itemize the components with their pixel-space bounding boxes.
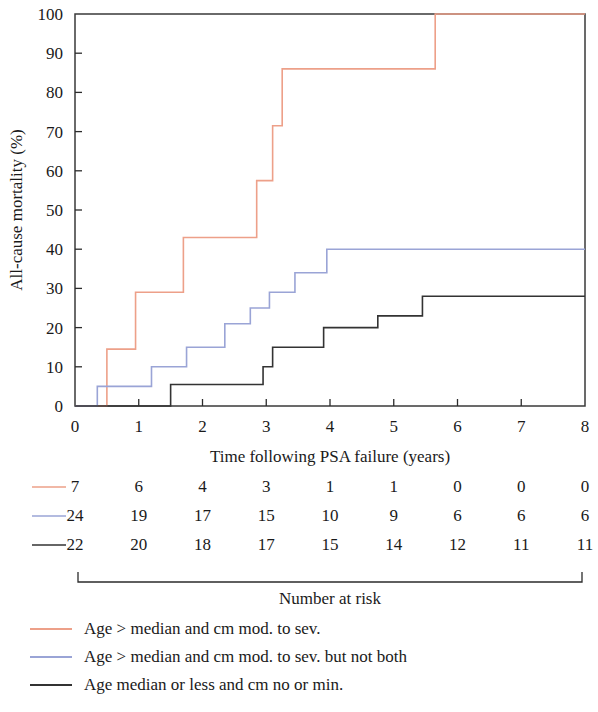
x-tick-label: 2	[198, 417, 207, 436]
risk-count-cell: 1	[390, 477, 399, 496]
y-tick-label: 70	[46, 123, 63, 142]
x-tick-label: 3	[262, 417, 271, 436]
risk-count-cell: 7	[71, 477, 80, 496]
y-tick-label: 90	[46, 44, 63, 63]
x-axis-ticks: 012345678	[71, 399, 590, 436]
risk-count-cell: 24	[67, 506, 85, 525]
x-tick-label: 5	[390, 417, 399, 436]
legend-group: Age > median and cm mod. to sev.Age > me…	[30, 619, 407, 694]
km-curve-series-3	[75, 296, 585, 406]
y-tick-label: 20	[46, 319, 63, 338]
legend-label-1: Age > median and cm mod. to sev.	[84, 619, 321, 638]
legend-label-2: Age > median and cm mod. to sev. but not…	[84, 647, 407, 666]
plot-area-frame	[75, 14, 585, 406]
risk-count-cell: 1	[326, 477, 335, 496]
km-curves-group	[75, 14, 585, 406]
risk-count-cell: 0	[453, 477, 462, 496]
number-at-risk-table: 7643110002419171510966622201817151412111…	[32, 477, 593, 554]
risk-count-cell: 15	[322, 535, 339, 554]
x-tick-label: 8	[581, 417, 590, 436]
risk-count-cell: 12	[449, 535, 466, 554]
km-curve-series-1	[75, 14, 585, 406]
risk-count-cell: 3	[262, 477, 271, 496]
risk-count-cell: 6	[517, 506, 526, 525]
y-tick-label: 80	[46, 83, 63, 102]
x-tick-label: 1	[135, 417, 144, 436]
chart-canvas: 0102030405060708090100 012345678 All-cau…	[0, 0, 598, 712]
risk-count-cell: 11	[513, 535, 529, 554]
y-tick-label: 10	[46, 358, 63, 377]
risk-count-cell: 4	[198, 477, 207, 496]
risk-count-cell: 22	[67, 535, 84, 554]
y-tick-label: 40	[46, 240, 63, 259]
kaplan-meier-figure: 0102030405060708090100 012345678 All-cau…	[0, 0, 598, 712]
y-tick-label: 30	[46, 279, 63, 298]
y-tick-label: 60	[46, 162, 63, 181]
y-tick-label: 100	[38, 5, 64, 24]
risk-count-cell: 20	[130, 535, 147, 554]
risk-count-cell: 11	[577, 535, 593, 554]
y-tick-label: 0	[55, 397, 64, 416]
risk-count-cell: 6	[135, 477, 144, 496]
risk-count-cell: 17	[258, 535, 276, 554]
risk-count-cell: 0	[517, 477, 526, 496]
x-tick-label: 0	[71, 417, 80, 436]
risk-count-cell: 6	[453, 506, 462, 525]
legend-label-3: Age median or less and cm no or min.	[84, 675, 343, 694]
risk-count-cell: 0	[581, 477, 590, 496]
risk-bracket	[78, 572, 582, 582]
risk-count-cell: 10	[322, 506, 339, 525]
x-axis-title: Time following PSA failure (years)	[210, 447, 450, 466]
risk-count-cell: 6	[581, 506, 590, 525]
risk-count-cell: 9	[390, 506, 399, 525]
risk-count-cell: 19	[130, 506, 147, 525]
y-tick-label: 50	[46, 201, 63, 220]
risk-count-cell: 18	[194, 535, 211, 554]
risk-bracket-label: Number at risk	[279, 589, 381, 608]
risk-count-cell: 17	[194, 506, 212, 525]
x-tick-label: 7	[517, 417, 526, 436]
x-tick-label: 4	[326, 417, 335, 436]
x-tick-label: 6	[453, 417, 462, 436]
y-axis-title: All-cause mortality (%)	[7, 129, 26, 290]
risk-count-cell: 15	[258, 506, 275, 525]
risk-count-cell: 14	[385, 535, 403, 554]
